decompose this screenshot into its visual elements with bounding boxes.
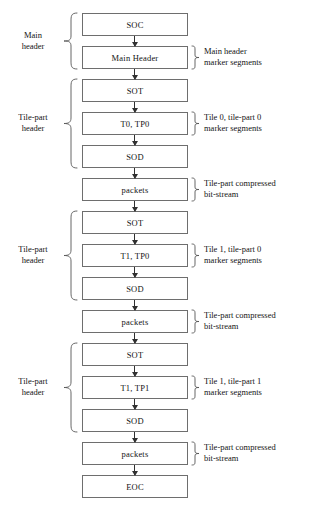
label-bitstream-1: Tile-part compressed bit-stream <box>204 310 316 331</box>
brace-bitstream-1 <box>191 309 202 334</box>
brace-bitstream-0 <box>191 177 202 202</box>
node-packets-0: packets <box>82 178 188 201</box>
label-bitstream-0-line2: bit-stream <box>204 189 316 200</box>
brace-tile1-part0-markers <box>191 243 202 268</box>
label-main-header-markers: Main header marker segments <box>204 46 316 67</box>
brace-tile-part-header-1 <box>62 210 78 301</box>
label-tile1-part0-markers: Tile 1, tile-part 0 marker segments <box>204 244 316 265</box>
arrow-packets-1-to-sot-2 <box>134 333 135 343</box>
node-sod-1: SOD <box>82 277 188 300</box>
label-bitstream-0-line1: Tile-part compressed <box>204 178 316 189</box>
arrow-sod-2-to-packets-2 <box>134 432 135 442</box>
arrow-t0-tp0-to-sod-0 <box>134 135 135 145</box>
label-tile-part-header-1: Tile-part header <box>4 244 62 265</box>
arrow-sod-1-to-packets-1 <box>134 300 135 310</box>
label-bitstream-1-line1: Tile-part compressed <box>204 310 316 321</box>
label-tile0-part0-markers: Tile 0, tile-part 0 marker segments <box>204 112 316 133</box>
node-soc: SOC <box>82 13 188 36</box>
label-tile1-part0-markers-line2: marker segments <box>204 255 316 266</box>
arrow-sot-1-to-t1-tp0 <box>134 234 135 244</box>
label-bitstream-0: Tile-part compressed bit-stream <box>204 178 316 199</box>
label-tile1-part1-markers: Tile 1, tile-part 1 marker segments <box>204 376 316 397</box>
node-packets-1: packets <box>82 310 188 333</box>
label-tile-part-header-0-line2: header <box>4 123 62 134</box>
label-tile1-part0-markers-line1: Tile 1, tile-part 0 <box>204 244 316 255</box>
brace-main-header <box>62 12 78 70</box>
label-bitstream-2-line1: Tile-part compressed <box>204 442 316 453</box>
arrow-t1-tp1-to-sod-2 <box>134 399 135 409</box>
node-packets-2: packets <box>82 442 188 465</box>
label-tile0-part0-markers-line2: marker segments <box>204 123 316 134</box>
arrow-packets-0-to-sot-1 <box>134 201 135 211</box>
node-sot-1: SOT <box>82 211 188 234</box>
arrow-sot-0-to-t0-tp0 <box>134 102 135 112</box>
arrow-sod-0-to-packets-0 <box>134 168 135 178</box>
label-main-header: Main header <box>8 30 58 51</box>
node-eoc: EOC <box>82 475 188 498</box>
label-tile-part-header-1-line1: Tile-part <box>4 244 62 255</box>
label-tile-part-header-1-line2: header <box>4 255 62 266</box>
node-t1-tp1: T1, TP1 <box>82 376 188 399</box>
label-bitstream-2: Tile-part compressed bit-stream <box>204 442 316 463</box>
node-t1-tp0: T1, TP0 <box>82 244 188 267</box>
brace-bitstream-2 <box>191 441 202 466</box>
label-main-header-markers-line2: marker segments <box>204 57 316 68</box>
arrow-main-header-to-sot-0 <box>134 69 135 79</box>
label-tile-part-header-0-line1: Tile-part <box>4 112 62 123</box>
arrow-t1-tp0-to-sod-1 <box>134 267 135 277</box>
brace-main-header-markers <box>191 45 202 70</box>
arrow-soc-to-main-header <box>134 36 135 46</box>
label-tile-part-header-2: Tile-part header <box>4 376 62 397</box>
arrow-packets-2-to-eoc <box>134 465 135 475</box>
node-sot-2: SOT <box>82 343 188 366</box>
label-bitstream-1-line2: bit-stream <box>204 321 316 332</box>
brace-tile1-part1-markers <box>191 375 202 400</box>
node-sod-2: SOD <box>82 409 188 432</box>
label-tile-part-header-2-line1: Tile-part <box>4 376 62 387</box>
node-main-header: Main Header <box>82 46 188 69</box>
label-tile1-part1-markers-line2: marker segments <box>204 387 316 398</box>
label-tile1-part1-markers-line1: Tile 1, tile-part 1 <box>204 376 316 387</box>
label-main-header-markers-line1: Main header <box>204 46 316 57</box>
node-t0-tp0: T0, TP0 <box>82 112 188 135</box>
diagram-canvas: SOC Main Header SOT T0, TP0 SOD packets … <box>0 0 317 514</box>
brace-tile-part-header-0 <box>62 78 78 169</box>
brace-tile0-part0-markers <box>191 111 202 136</box>
brace-tile-part-header-2 <box>62 342 78 433</box>
label-tile0-part0-markers-line1: Tile 0, tile-part 0 <box>204 112 316 123</box>
label-main-header-line1: Main <box>8 30 58 41</box>
node-sod-0: SOD <box>82 145 188 168</box>
label-tile-part-header-0: Tile-part header <box>4 112 62 133</box>
label-bitstream-2-line2: bit-stream <box>204 453 316 464</box>
arrow-sot-2-to-t1-tp1 <box>134 366 135 376</box>
node-sot-0: SOT <box>82 79 188 102</box>
label-main-header-line2: header <box>8 41 58 52</box>
label-tile-part-header-2-line2: header <box>4 387 62 398</box>
